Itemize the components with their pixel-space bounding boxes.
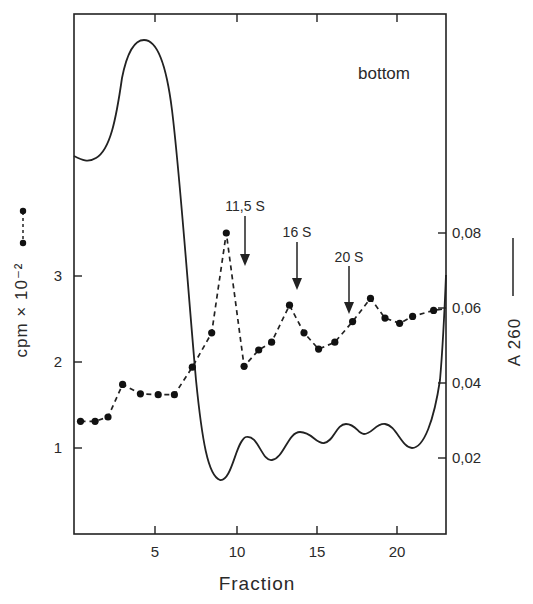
cpm-data-point <box>349 318 356 325</box>
x-tick-label: 20 <box>389 543 406 560</box>
cpm-data-point <box>241 363 248 370</box>
cpm-data-point <box>381 315 388 322</box>
y-right-tick-label: 0,02 <box>452 449 481 466</box>
cpm-data-point <box>104 413 111 420</box>
y-right-axis-title: A 260 <box>505 318 524 367</box>
cpm-data-point <box>430 307 437 314</box>
marker-label: 11,5 S <box>225 198 264 214</box>
cpm-data-point <box>409 313 416 320</box>
sedimentation-chart: 5 10 15 20 Fraction 1 2 3 cpm × 10⁻² 0,0… <box>0 0 533 604</box>
cpm-data-point <box>171 391 178 398</box>
a260-curve <box>74 40 446 480</box>
cpm-data-point <box>367 295 374 302</box>
cpm-data-point <box>223 229 230 236</box>
marker-label: 16 S <box>283 224 312 240</box>
y-right-tick-label: 0,08 <box>452 224 481 241</box>
cpm-data-point <box>396 320 403 327</box>
plot-frame <box>74 14 446 534</box>
legend-dashed-dots <box>20 208 26 246</box>
cpm-markers <box>77 229 437 425</box>
cpm-data-point <box>208 329 215 336</box>
x-tick-label: 10 <box>229 543 246 560</box>
y-left-tick-label: 1 <box>54 439 62 456</box>
y-right-title-group: A 260 <box>505 318 524 367</box>
y-right-tick-label: 0,06 <box>452 299 481 316</box>
cpm-data-point <box>189 364 196 371</box>
cpm-data-point <box>137 390 144 397</box>
cpm-data-point <box>92 418 99 425</box>
y-left-axis-title: cpm × 10⁻² <box>12 262 31 357</box>
cpm-data-point <box>268 339 275 346</box>
marker-label: 20 S <box>335 249 364 265</box>
cpm-data-point <box>300 329 307 336</box>
cpm-data-point <box>255 346 262 353</box>
cpm-data-point <box>331 339 338 346</box>
y-right-tick-label: 0,04 <box>452 374 481 391</box>
y-left-tick-label: 2 <box>54 353 62 370</box>
cpm-data-point <box>77 418 84 425</box>
cpm-data-point <box>286 302 293 309</box>
y-left-tick-label: 3 <box>54 267 62 284</box>
marker-20s: 20 S <box>335 249 364 314</box>
x-tick-label: 5 <box>151 543 159 560</box>
cpm-data-point <box>315 346 322 353</box>
bottom-label: bottom <box>358 64 410 83</box>
marker-16s: 16 S <box>283 224 312 290</box>
marker-11-5s: 11,5 S <box>225 198 264 266</box>
x-tick-labels: 5 10 15 20 <box>151 543 406 560</box>
y-left-title-group: cpm × 10⁻² <box>12 262 31 357</box>
cpm-data-point <box>119 381 126 388</box>
x-axis-title: Fraction <box>219 573 296 594</box>
x-axis <box>155 14 397 534</box>
cpm-dashed-line <box>81 233 447 421</box>
x-tick-label: 15 <box>309 543 326 560</box>
cpm-data-point <box>155 391 162 398</box>
